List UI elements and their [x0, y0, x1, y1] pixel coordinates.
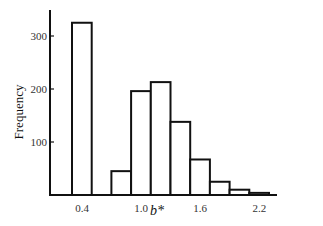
x-tick-label: 0.4	[75, 202, 89, 214]
x-axis-label: b*	[150, 203, 164, 219]
y-tick-label: 300	[31, 30, 48, 42]
histogram-chart: 100200300 0.41.01.62.2	[0, 0, 323, 226]
histogram-bar	[190, 159, 210, 195]
histogram-bars	[72, 23, 269, 195]
histogram-bar	[171, 122, 191, 195]
histogram-bar	[72, 23, 92, 195]
histogram-bar	[131, 91, 151, 195]
x-tick-label: 1.0	[134, 202, 148, 214]
x-tick-label: 1.6	[193, 202, 207, 214]
x-axis-ticks: 0.41.01.62.2	[75, 202, 266, 214]
histogram-bar	[111, 171, 131, 195]
y-tick-label: 100	[31, 136, 48, 148]
y-axis-label: Frequency	[11, 77, 27, 147]
histogram-bar	[210, 182, 230, 195]
y-tick-label: 200	[31, 83, 48, 95]
x-tick-label: 2.2	[252, 202, 266, 214]
histogram-bar	[151, 82, 171, 195]
